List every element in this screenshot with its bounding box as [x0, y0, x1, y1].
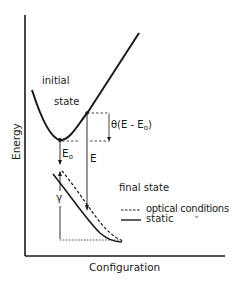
- final-state-optical-curve: [62, 171, 123, 241]
- E-label: E: [90, 153, 97, 164]
- gamma-label: γ: [56, 192, 62, 203]
- final-state-label: final state: [119, 183, 169, 193]
- legend-ditto-mark: ": [195, 216, 198, 223]
- y-axis-label: Energy: [11, 123, 22, 160]
- x-axis-label: Configuration: [89, 262, 160, 273]
- initial-state-label-2: state: [54, 97, 79, 107]
- E0-label: Eo: [62, 148, 73, 161]
- energy-configuration-diagram: [0, 0, 238, 287]
- theta-label: θ(E - Eo): [111, 120, 152, 132]
- initial-state-label-1: initial: [42, 76, 70, 86]
- legend-static-label: static: [146, 214, 173, 224]
